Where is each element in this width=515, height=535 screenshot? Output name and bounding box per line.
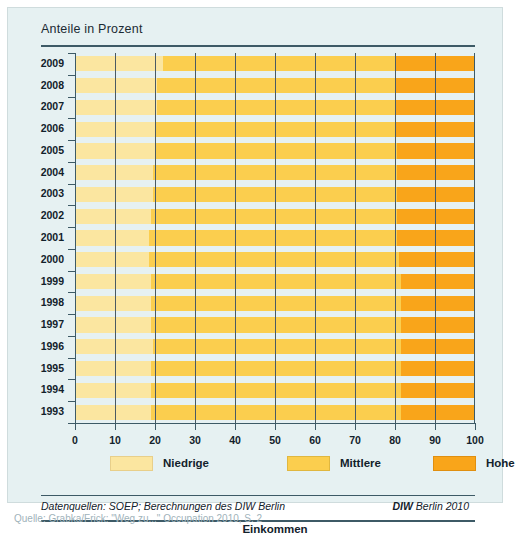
gridline-40 bbox=[235, 53, 236, 423]
legend-swatch-high bbox=[433, 456, 476, 471]
y-axis-label: 2004 bbox=[41, 166, 64, 178]
x-axis-tick bbox=[195, 423, 196, 430]
bar-segment-high bbox=[401, 383, 475, 398]
y-axis-label: 2002 bbox=[41, 209, 64, 221]
y-axis-label: 2006 bbox=[41, 122, 64, 134]
x-axis-tick bbox=[275, 423, 276, 430]
y-axis-tick bbox=[68, 97, 75, 98]
y-axis-label: 2009 bbox=[41, 57, 64, 69]
x-axis-tick bbox=[355, 423, 356, 430]
bar-segment-high bbox=[401, 361, 475, 376]
bar-segment-low bbox=[75, 296, 151, 311]
bar-segment-low bbox=[75, 383, 151, 398]
x-axis-tick bbox=[315, 423, 316, 430]
chart-legend: NiedrigeMittlereHohe bbox=[75, 455, 475, 475]
bar-segment-mid bbox=[153, 339, 401, 354]
y-axis-tick bbox=[68, 358, 75, 359]
bar-segment-mid bbox=[151, 383, 401, 398]
gridline-50 bbox=[275, 53, 276, 423]
plot-area: 2009200820072006200520042003200220012000… bbox=[75, 53, 475, 423]
x-axis-tick bbox=[395, 423, 396, 430]
gridline-30 bbox=[195, 53, 196, 423]
bar-segment-low bbox=[75, 361, 151, 376]
bar-segment-low bbox=[75, 317, 151, 332]
footer-divider-top bbox=[41, 495, 475, 496]
bar-segment-low bbox=[75, 100, 157, 115]
y-axis-tick bbox=[68, 205, 75, 206]
y-axis-tick bbox=[68, 118, 75, 119]
bar-segment-low bbox=[75, 339, 153, 354]
figure-caption: Quelle: Grabka/Frick: "Weg zu..." Occupa… bbox=[14, 513, 262, 524]
y-axis-label: 2000 bbox=[41, 253, 64, 265]
bar-segment-mid bbox=[151, 361, 401, 376]
bar-segment-low bbox=[75, 252, 149, 267]
x-axis-tick bbox=[235, 423, 236, 430]
y-axis-label: 2008 bbox=[41, 79, 64, 91]
gridline-90 bbox=[435, 53, 436, 423]
y-axis-tick bbox=[68, 314, 75, 315]
bar-segment-high bbox=[397, 187, 475, 202]
bar-segment-mid bbox=[151, 274, 401, 289]
legend-swatch-low bbox=[110, 456, 153, 471]
bar-segment-low bbox=[75, 230, 149, 245]
y-axis-tick bbox=[68, 53, 75, 54]
bar-segment-low bbox=[75, 187, 153, 202]
legend-label-low: Niedrige bbox=[163, 457, 209, 469]
gridline-10 bbox=[115, 53, 116, 423]
bar-segment-mid bbox=[157, 100, 395, 115]
bar-segment-low bbox=[75, 56, 163, 71]
x-axis-label: 40 bbox=[215, 434, 255, 446]
gridline-60 bbox=[315, 53, 316, 423]
y-axis-tick bbox=[68, 292, 75, 293]
bar-segment-mid bbox=[151, 405, 401, 420]
plot-left-edge bbox=[75, 53, 76, 423]
y-axis-label: 2005 bbox=[41, 144, 64, 156]
header-divider bbox=[41, 45, 475, 47]
x-axis-label: 0 bbox=[55, 434, 95, 446]
y-axis-label: 1997 bbox=[41, 318, 64, 330]
bar-segment-high bbox=[401, 339, 475, 354]
x-axis-label: 60 bbox=[295, 434, 335, 446]
chart-figure: Anteile in Prozent 200920082007200620052… bbox=[7, 7, 503, 503]
x-axis-tick bbox=[115, 423, 116, 430]
x-axis-label: 90 bbox=[415, 434, 455, 446]
y-axis-tick bbox=[68, 401, 75, 402]
bar-segment-high bbox=[399, 252, 475, 267]
bar-segment-mid bbox=[157, 78, 395, 93]
bar-segment-low bbox=[75, 274, 151, 289]
y-axis-label: 1995 bbox=[41, 362, 64, 374]
bar-segment-high bbox=[397, 165, 475, 180]
y-axis-tick bbox=[68, 336, 75, 337]
y-axis-tick bbox=[68, 379, 75, 380]
bar-segment-mid bbox=[163, 56, 395, 71]
y-axis-tick bbox=[68, 162, 75, 163]
x-axis-tick bbox=[75, 423, 76, 430]
x-axis-tick bbox=[475, 423, 476, 430]
source-note: Datenquellen: SOEP; Berechnungen des DIW… bbox=[41, 500, 285, 512]
y-axis-label: 2003 bbox=[41, 187, 64, 199]
bar-segment-mid bbox=[151, 317, 401, 332]
y-axis-tick bbox=[68, 227, 75, 228]
y-axis-label: 2001 bbox=[41, 231, 64, 243]
bar-segment-high bbox=[401, 296, 475, 311]
bar-segment-low bbox=[75, 405, 151, 420]
bar-segment-high bbox=[401, 274, 475, 289]
x-axis-label: 70 bbox=[335, 434, 375, 446]
publisher-bold: DIW bbox=[393, 500, 413, 512]
x-axis-tick bbox=[435, 423, 436, 430]
x-axis-title: Einkommen bbox=[75, 523, 475, 535]
bar-segment-high bbox=[401, 405, 475, 420]
x-axis-label: 10 bbox=[95, 434, 135, 446]
bar-segment-high bbox=[397, 209, 475, 224]
gridline-70 bbox=[355, 53, 356, 423]
bar-segment-low bbox=[75, 209, 151, 224]
gridline-20 bbox=[155, 53, 156, 423]
publisher-note: DIW Berlin 2010 bbox=[393, 500, 469, 512]
bar-segment-mid bbox=[149, 252, 399, 267]
legend-swatch-mid bbox=[287, 456, 330, 471]
y-axis-tick bbox=[68, 184, 75, 185]
y-axis-tick bbox=[68, 75, 75, 76]
publisher-rest: Berlin 2010 bbox=[413, 500, 469, 512]
x-axis-tick bbox=[155, 423, 156, 430]
y-axis-label: 1998 bbox=[41, 296, 64, 308]
